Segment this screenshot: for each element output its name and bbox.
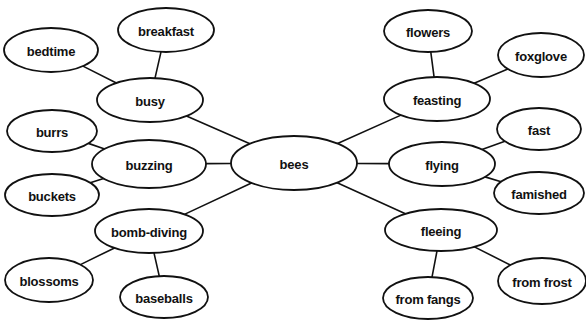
node-label-bombdiving: bomb-diving <box>111 225 187 240</box>
node-label-baseballs: baseballs <box>135 291 192 306</box>
node-label-famished: famished <box>511 187 567 202</box>
node-label-flying: flying <box>425 158 459 173</box>
node-foxglove[interactable]: foxglove <box>498 33 584 77</box>
node-fromfangs[interactable]: from fangs <box>383 277 473 319</box>
node-layer: beesbusybuzzingbomb-divingfeastingflying… <box>4 8 586 319</box>
node-fast[interactable]: fast <box>497 108 581 150</box>
edge-bees-to-bombdiving <box>184 183 251 214</box>
node-fleeing[interactable]: fleeing <box>385 209 497 251</box>
node-blossoms[interactable]: blossoms <box>5 258 93 302</box>
edge-flying-to-famished <box>485 177 501 182</box>
node-label-fast: fast <box>528 123 551 138</box>
edge-bees-to-busy <box>186 116 249 144</box>
edge-bees-to-feasting <box>338 115 401 143</box>
node-buckets[interactable]: buckets <box>5 174 99 216</box>
node-label-blossoms: blossoms <box>19 274 78 289</box>
node-busy[interactable]: busy <box>97 78 203 122</box>
node-fromfrost[interactable]: from frost <box>498 258 586 304</box>
node-label-flowers: flowers <box>406 25 450 40</box>
node-bombdiving[interactable]: bomb-diving <box>95 209 203 253</box>
node-label-bedtime: bedtime <box>27 44 75 59</box>
node-bedtime[interactable]: bedtime <box>4 28 98 72</box>
node-label-foxglove: foxglove <box>515 49 567 64</box>
node-label-breakfast: breakfast <box>138 24 195 39</box>
node-feasting[interactable]: feasting <box>384 77 490 121</box>
node-flowers[interactable]: flowers <box>384 10 472 52</box>
node-bees[interactable]: bees <box>231 136 357 190</box>
edge-fleeing-to-fromfangs <box>432 251 437 277</box>
node-burrs[interactable]: burrs <box>7 110 97 152</box>
edge-buzzing-to-buckets <box>90 179 103 183</box>
edge-feasting-to-flowers <box>431 52 434 77</box>
edge-feasting-to-foxglove <box>474 69 508 83</box>
edge-buzzing-to-burrs <box>88 143 104 149</box>
node-baseballs[interactable]: baseballs <box>120 276 208 318</box>
edge-flying-to-fast <box>482 141 505 149</box>
node-flying[interactable]: flying <box>389 142 495 186</box>
node-label-fleeing: fleeing <box>421 224 462 239</box>
edge-busy-to-bedtime <box>83 66 116 83</box>
node-famished[interactable]: famished <box>494 172 584 214</box>
node-label-burrs: burrs <box>36 125 68 140</box>
node-label-busy: busy <box>135 94 166 109</box>
node-label-feasting: feasting <box>413 93 462 108</box>
edge-bombdiving-to-blossoms <box>80 248 114 265</box>
node-label-buzzing: buzzing <box>126 158 173 173</box>
node-breakfast[interactable]: breakfast <box>118 8 214 52</box>
node-label-fromfangs: from fangs <box>395 292 460 307</box>
node-label-buckets: buckets <box>28 189 76 204</box>
concept-map-diagram: beesbusybuzzingbomb-divingfeastingflying… <box>0 0 586 320</box>
edge-bombdiving-to-baseballs <box>154 253 159 276</box>
node-label-bees: bees <box>280 157 309 172</box>
concept-map-canvas: beesbusybuzzingbomb-divingfeastingflying… <box>0 0 586 320</box>
node-buzzing[interactable]: buzzing <box>92 140 206 188</box>
edge-busy-to-breakfast <box>155 52 161 78</box>
edge-bees-to-fleeing <box>337 183 405 214</box>
edge-fleeing-to-fromfrost <box>474 247 510 265</box>
node-label-fromfrost: from frost <box>512 275 572 290</box>
